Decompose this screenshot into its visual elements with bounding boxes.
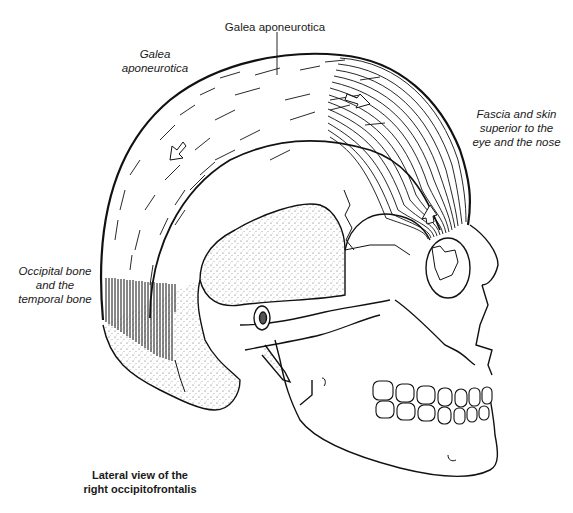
caption-line2: right occipitofrontalis bbox=[80, 482, 200, 496]
cranium bbox=[103, 190, 498, 477]
label-galea-top: Galea aponeurotica bbox=[200, 20, 350, 34]
galea-arrow-front-icon bbox=[345, 94, 370, 108]
origin-line2: and the bbox=[10, 278, 100, 292]
frontalis-muscle bbox=[328, 58, 466, 239]
insertion-line3: eye and the nose bbox=[460, 135, 573, 149]
origin-line3: temporal bone bbox=[10, 292, 100, 306]
skull-illustration bbox=[0, 0, 573, 513]
label-origin: Occipital bone and the temporal bone bbox=[10, 264, 100, 306]
galea-arrow-back-icon bbox=[170, 142, 186, 160]
caption-line1: Lateral view of the bbox=[80, 468, 200, 482]
galea-left-line2: aponeurotica bbox=[115, 61, 195, 75]
insertion-line1: Fascia and skin bbox=[460, 107, 573, 121]
insertion-line2: superior to the bbox=[460, 121, 573, 135]
origin-line1: Occipital bone bbox=[10, 264, 100, 278]
galea-left-line1: Galea bbox=[115, 47, 195, 61]
teeth bbox=[373, 381, 492, 424]
galea-top-text: Galea aponeurotica bbox=[225, 21, 325, 33]
label-galea-left: Galea aponeurotica bbox=[115, 47, 195, 75]
figure-caption: Lateral view of the right occipitofronta… bbox=[80, 468, 200, 496]
label-insertion: Fascia and skin superior to the eye and … bbox=[460, 107, 573, 149]
